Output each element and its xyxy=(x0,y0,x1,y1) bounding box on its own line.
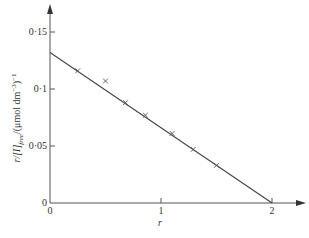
ylabel-subscript: free xyxy=(17,134,25,145)
y-tick-label: 0·1 xyxy=(34,83,47,94)
ylabel-unit: /(μmol dm xyxy=(11,92,23,135)
axes xyxy=(47,4,306,206)
fit-line-group xyxy=(50,53,272,203)
data-point-x-marker xyxy=(214,163,219,168)
ylabel-outer-superscript: −1 xyxy=(10,73,18,81)
scatchard-plot: 01200·050·10·15 r r/[I]free/(μmol dm−3)−… xyxy=(0,0,309,238)
y-tick-label: 0·15 xyxy=(29,26,47,37)
y-axis-label: r/[I]free/(μmol dm−3)−1 xyxy=(10,73,25,162)
y-axis-arrow-icon xyxy=(47,4,53,14)
x-axis-arrow-icon xyxy=(296,200,306,206)
ylabel-main: r/[I] xyxy=(11,145,22,163)
x-axis-label: r xyxy=(158,217,162,228)
y-tick-label: 0 xyxy=(42,197,47,208)
x-tick-label: 1 xyxy=(159,205,164,216)
data-point-x-marker xyxy=(103,79,108,84)
x-tick-label: 0 xyxy=(48,205,53,216)
data-point-x-marker xyxy=(191,147,196,152)
y-tick-label: 0·05 xyxy=(29,140,47,151)
fit-line xyxy=(50,53,272,203)
x-tick-label: 2 xyxy=(270,205,275,216)
